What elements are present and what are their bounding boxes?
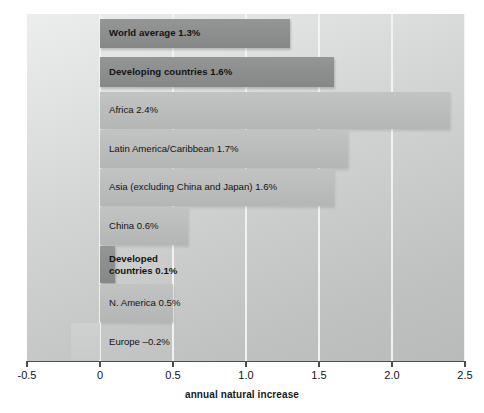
bar-row: N. America 0.5% xyxy=(27,284,465,323)
x-tick-label: 0 xyxy=(97,369,103,381)
plot-area: World average 1.3%Developing countries 1… xyxy=(27,14,465,361)
bar-label: N. America 0.5% xyxy=(109,297,180,309)
x-tick-label: 2.5 xyxy=(457,369,472,381)
bar-row: Africa 2.4% xyxy=(27,91,465,130)
x-tick-label: 0.5 xyxy=(165,369,180,381)
x-tick xyxy=(26,361,27,367)
bar-label: Latin America/Caribbean 1.7% xyxy=(109,143,239,155)
x-tick-label: -0.5 xyxy=(18,369,37,381)
bar-row: Latin America/Caribbean 1.7% xyxy=(27,130,465,169)
bar-chart: World regions World average 1.3%Developi… xyxy=(0,0,484,413)
x-tick-label: 2.0 xyxy=(384,369,399,381)
x-tick-label: 1.5 xyxy=(311,369,326,381)
x-tick xyxy=(99,361,100,367)
bar-label: World average 1.3% xyxy=(109,27,200,39)
bar-label: Africa 2.4% xyxy=(109,104,158,116)
x-axis-title: annual natural increase xyxy=(0,389,484,400)
bar-label: Developedcountries 0.1% xyxy=(109,252,229,277)
bar-label: Asia (excluding China and Japan) 1.6% xyxy=(109,181,277,193)
bar[interactable] xyxy=(71,323,100,360)
x-tick-label: 1.0 xyxy=(238,369,253,381)
x-tick xyxy=(245,361,246,367)
x-tick xyxy=(172,361,173,367)
x-tick xyxy=(318,361,319,367)
bar-row: Developing countries 1.6% xyxy=(27,53,465,92)
x-tick xyxy=(391,361,392,367)
bar-row: China 0.6% xyxy=(27,207,465,246)
bar-row: Europe –0.2% xyxy=(27,322,465,361)
bar-row: Asia (excluding China and Japan) 1.6% xyxy=(27,168,465,207)
bar-row: World average 1.3% xyxy=(27,14,465,53)
bar-label: Europe –0.2% xyxy=(109,336,170,348)
bar-row: Developedcountries 0.1% xyxy=(27,245,465,284)
x-tick xyxy=(464,361,465,367)
bar-label: Developing countries 1.6% xyxy=(109,66,232,78)
bar-label: China 0.6% xyxy=(109,220,159,232)
